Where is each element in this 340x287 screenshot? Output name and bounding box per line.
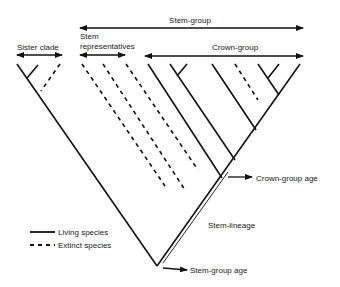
crown-group-age-label: Crown-group age [256,174,318,183]
legend: Living species Extinct species [30,228,111,250]
sister-clade-label: Sister clade [17,43,59,52]
phylogeny-diagram: Stem-group Sister clade Stem representat… [0,0,340,287]
stem-representatives-label-2: representatives [80,42,135,51]
legend-living-label: Living species [58,228,108,237]
stem-group-age-label: Stem-group age [190,266,248,275]
crown-group-label: Crown-group [212,43,259,52]
stem-group-age-arrow [163,268,187,270]
legend-extinct-label: Extinct species [58,241,111,250]
stem-representatives-label-1: Stem [80,32,99,41]
stem-group-label: Stem-group [169,16,211,25]
stem-lineage-label: Stem-lineage [208,221,256,230]
